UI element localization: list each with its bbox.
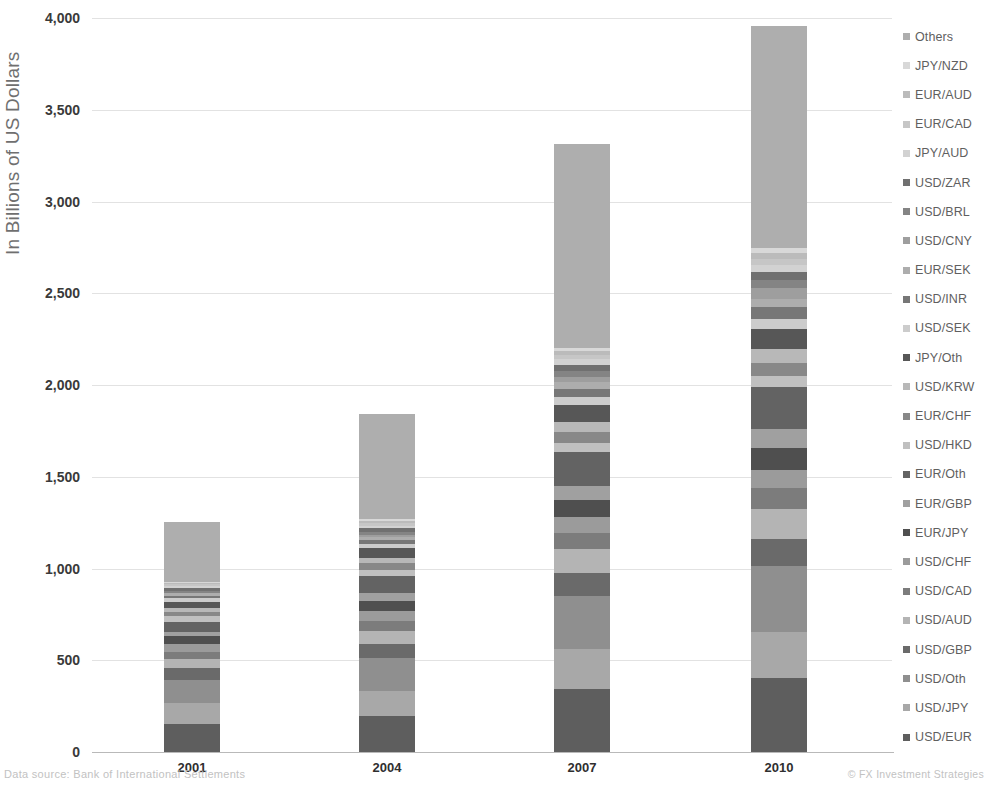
bar-segment-USD-JPY[interactable]	[554, 649, 610, 688]
legend-item-EUR-JPY[interactable]: EUR/JPY	[903, 518, 988, 547]
bar-segment-USD-CHF[interactable]	[751, 470, 807, 487]
legend-item-USD-AUD[interactable]: USD/AUD	[903, 606, 988, 635]
bar-segment-USD-INR[interactable]	[554, 389, 610, 397]
bar-segment-USD-EUR[interactable]	[164, 724, 220, 752]
bar-segment-JPY-Oth[interactable]	[554, 405, 610, 422]
legend-item-EUR-CHF[interactable]: EUR/CHF	[903, 401, 988, 430]
bar-segment-USD-Oth[interactable]	[164, 680, 220, 704]
bar-segment-Others[interactable]	[554, 144, 610, 348]
bar-segment-Others[interactable]	[359, 414, 415, 519]
bar-segment-USD-GBP[interactable]	[751, 539, 807, 566]
legend-item-JPY-AUD[interactable]: JPY/AUD	[903, 139, 988, 168]
bar-segment-USD-EUR[interactable]	[554, 689, 610, 752]
legend-item-USD-CAD[interactable]: USD/CAD	[903, 577, 988, 606]
bar-segment-EUR-GBP[interactable]	[359, 593, 415, 600]
bar-segment-USD-INR[interactable]	[751, 307, 807, 319]
bar-segment-USD-GBP[interactable]	[554, 573, 610, 596]
bar-segment-USD-CAD[interactable]	[751, 488, 807, 509]
legend-item-USD-SEK[interactable]: USD/SEK	[903, 314, 988, 343]
bar-segment-USD-AUD[interactable]	[359, 631, 415, 644]
bar-segment-EUR-JPY[interactable]	[554, 500, 610, 517]
legend-label: EUR/CAD	[915, 117, 972, 131]
bar-segment-USD-ZAR[interactable]	[751, 272, 807, 279]
bar-segment-USD-SEK[interactable]	[554, 397, 610, 405]
bar-segment-USD-JPY[interactable]	[164, 703, 220, 723]
bar-segment-EUR-Oth[interactable]	[554, 452, 610, 486]
bar-segment-USD-HKD[interactable]	[554, 443, 610, 452]
legend-swatch-icon	[903, 121, 910, 128]
bar-segment-USD-CAD[interactable]	[359, 621, 415, 631]
bar-segment-USD-CAD[interactable]	[554, 533, 610, 550]
bar-segment-Others[interactable]	[164, 522, 220, 582]
legend-swatch-icon	[903, 617, 910, 624]
bar-segment-EUR-GBP[interactable]	[751, 429, 807, 448]
bar-segment-USD-AUD[interactable]	[164, 659, 220, 667]
bar-segment-EUR-Oth[interactable]	[164, 622, 220, 632]
bar-stack	[751, 26, 807, 752]
legend-item-EUR-Oth[interactable]: EUR/Oth	[903, 460, 988, 489]
legend-item-USD-EUR[interactable]: USD/EUR	[903, 723, 988, 752]
bar-segment-EUR-CHF[interactable]	[751, 363, 807, 376]
legend-item-EUR-GBP[interactable]: EUR/GBP	[903, 489, 988, 518]
bar-segment-JPY-AUD[interactable]	[751, 265, 807, 272]
legend-item-JPY-Oth[interactable]: JPY/Oth	[903, 343, 988, 372]
stacked-bar-chart: In Billions of US Dollars 05001,0001,500…	[0, 0, 988, 796]
bar-segment-USD-CHF[interactable]	[359, 611, 415, 621]
legend-item-USD-BRL[interactable]: USD/BRL	[903, 197, 988, 226]
bar-segment-EUR-Oth[interactable]	[359, 576, 415, 593]
legend-item-USD-CNY[interactable]: USD/CNY	[903, 226, 988, 255]
bar-segment-USD-GBP[interactable]	[359, 644, 415, 659]
bar-segment-USD-SEK[interactable]	[751, 319, 807, 329]
bar-segment-EUR-Oth[interactable]	[751, 387, 807, 429]
bar-segment-USD-EUR[interactable]	[751, 678, 807, 752]
bar-segment-USD-GBP[interactable]	[164, 668, 220, 680]
bar-segment-EUR-SEK[interactable]	[751, 299, 807, 307]
bar-segment-USD-CAD[interactable]	[164, 652, 220, 659]
bar-segment-USD-CHF[interactable]	[164, 644, 220, 652]
legend-item-USD-GBP[interactable]: USD/GBP	[903, 635, 988, 664]
legend-item-USD-INR[interactable]: USD/INR	[903, 285, 988, 314]
bar-segment-USD-JPY[interactable]	[751, 632, 807, 678]
legend-item-USD-HKD[interactable]: USD/HKD	[903, 431, 988, 460]
legend-label: EUR/Oth	[915, 467, 966, 481]
legend-item-EUR-SEK[interactable]: EUR/SEK	[903, 256, 988, 285]
legend-item-USD-CHF[interactable]: USD/CHF	[903, 547, 988, 576]
bar-segment-USD-KRW[interactable]	[751, 349, 807, 363]
legend: OthersJPY/NZDEUR/AUDEUR/CADJPY/AUDUSD/ZA…	[903, 22, 988, 752]
bar-segment-USD-JPY[interactable]	[359, 691, 415, 717]
bar-group-2001[interactable]: 2001	[164, 522, 220, 752]
bar-segment-USD-CHF[interactable]	[554, 517, 610, 533]
bar-group-2007[interactable]: 2007	[554, 144, 610, 752]
bar-segment-USD-Oth[interactable]	[751, 566, 807, 632]
legend-item-JPY-NZD[interactable]: JPY/NZD	[903, 51, 988, 80]
bar-segment-USD-EUR[interactable]	[359, 716, 415, 752]
legend-item-Others[interactable]: Others	[903, 22, 988, 51]
y-tick-label-3000: 3,000	[45, 194, 80, 210]
bar-group-2010[interactable]: 2010	[751, 26, 807, 752]
bar-segment-USD-AUD[interactable]	[751, 509, 807, 539]
legend-swatch-icon	[903, 442, 910, 449]
bar-group-2004[interactable]: 2004	[359, 414, 415, 752]
bar-segment-EUR-CHF[interactable]	[554, 432, 610, 443]
legend-item-EUR-AUD[interactable]: EUR/AUD	[903, 80, 988, 109]
bar-segment-EUR-JPY[interactable]	[359, 601, 415, 611]
legend-item-USD-Oth[interactable]: USD/Oth	[903, 664, 988, 693]
legend-item-USD-JPY[interactable]: USD/JPY	[903, 693, 988, 722]
y-tick-label-4000: 4,000	[45, 10, 80, 26]
bar-segment-USD-KRW[interactable]	[554, 422, 610, 432]
bar-segment-JPY-Oth[interactable]	[359, 548, 415, 557]
bar-segment-USD-HKD[interactable]	[751, 376, 807, 387]
bar-segment-EUR-JPY[interactable]	[164, 636, 220, 643]
bar-segment-EUR-JPY[interactable]	[751, 448, 807, 470]
bar-segment-USD-Oth[interactable]	[359, 658, 415, 690]
legend-item-USD-KRW[interactable]: USD/KRW	[903, 372, 988, 401]
bar-segment-EUR-GBP[interactable]	[554, 486, 610, 500]
bar-segment-USD-BRL[interactable]	[751, 280, 807, 288]
legend-item-USD-ZAR[interactable]: USD/ZAR	[903, 168, 988, 197]
bar-segment-USD-AUD[interactable]	[554, 549, 610, 573]
bar-segment-USD-Oth[interactable]	[554, 596, 610, 649]
legend-item-EUR-CAD[interactable]: EUR/CAD	[903, 110, 988, 139]
bar-segment-JPY-Oth[interactable]	[751, 329, 807, 349]
bar-segment-USD-CNY[interactable]	[751, 288, 807, 299]
bar-segment-Others[interactable]	[751, 26, 807, 248]
